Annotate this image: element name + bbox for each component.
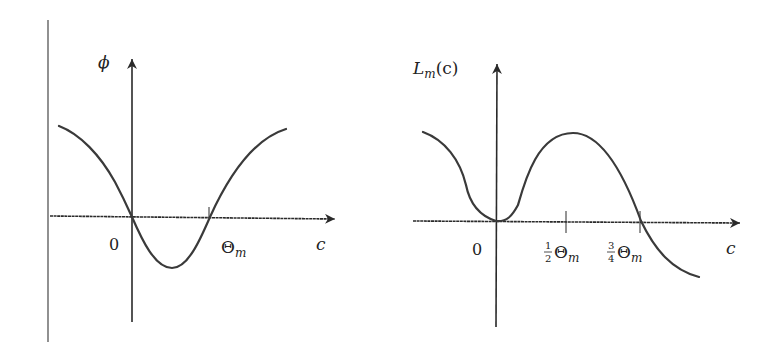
phi-x-label: c <box>316 234 326 254</box>
phi-plot: ϕ 0 Θm c <box>50 52 335 322</box>
figure-canvas: ϕ 0 Θm c Lm(c) 0 1 2 Θm 3 4 <box>0 0 775 357</box>
phi-y-label: ϕ <box>98 52 110 72</box>
lm-origin-label: 0 <box>472 240 482 259</box>
lm-x-axis <box>413 221 740 223</box>
phi-theta-label: Θm <box>221 237 246 260</box>
lm-half-theta-label: 1 2 Θm <box>544 240 579 265</box>
phi-origin-label: 0 <box>109 235 119 254</box>
svg-text:Θm: Θm <box>554 242 579 265</box>
phi-curve <box>59 126 286 268</box>
lm-y-axis <box>496 64 497 327</box>
lm-y-label: Lm(c) <box>412 58 458 81</box>
phi-x-axis <box>50 216 335 219</box>
svg-text:3: 3 <box>608 240 614 251</box>
svg-text:4: 4 <box>608 253 614 264</box>
svg-text:1: 1 <box>545 240 551 251</box>
lm-x-label: c <box>726 238 736 258</box>
lm-threequarter-theta-label: 3 4 Θm <box>607 240 642 265</box>
lm-plot: Lm(c) 0 1 2 Θm 3 4 Θm c <box>412 58 740 327</box>
svg-text:2: 2 <box>545 253 551 264</box>
svg-text:Θm: Θm <box>617 242 642 265</box>
